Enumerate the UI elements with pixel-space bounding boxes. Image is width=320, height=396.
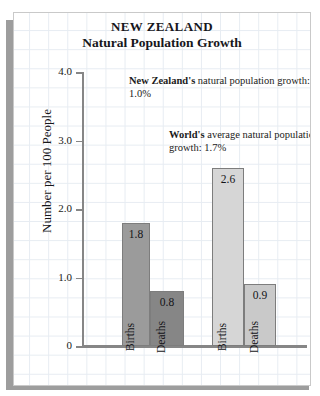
y-tick-label: 0 <box>42 339 72 351</box>
bar-category-label: Deaths <box>155 321 167 353</box>
y-tick-label: 1.0 <box>42 271 72 283</box>
y-tick-mark <box>76 346 82 348</box>
y-axis-title: Number per 100 People <box>39 76 55 266</box>
chart-sheet: NEW ZEALAND Natural Population Growth Ne… <box>13 12 311 386</box>
y-tick-label: 4.0 <box>42 65 72 77</box>
bar-value-label: 1.8 <box>123 228 149 240</box>
chart-page: NEW ZEALAND Natural Population Growth Ne… <box>0 0 320 396</box>
bar-category-label: Deaths <box>248 321 260 353</box>
y-tick-label: 3.0 <box>42 134 72 146</box>
y-tick-label: 2.0 <box>42 202 72 214</box>
bar-new-zealand-deaths: 0.8Deaths <box>150 291 184 346</box>
bar-value-label: 2.6 <box>213 173 243 185</box>
bar-world-births: 2.6Births <box>212 168 244 346</box>
bar-value-label: 0.8 <box>151 296 183 308</box>
bar-category-label: Births <box>216 323 228 351</box>
plot-area: Number per 100 People 01.02.03.04.0 1.8B… <box>14 13 310 385</box>
bar-category-label: Births <box>124 323 136 351</box>
bar-world-deaths: 0.9Deaths <box>244 284 276 346</box>
bar-series: 1.8Births0.8Deaths2.6Births0.9Deaths <box>82 72 307 346</box>
bar-value-label: 0.9 <box>245 289 275 301</box>
bar-new-zealand-births: 1.8Births <box>122 223 150 346</box>
